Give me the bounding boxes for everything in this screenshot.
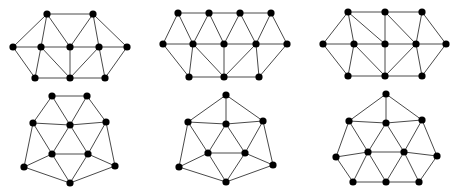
graph-edge [348,44,354,76]
graph-node [433,152,440,159]
graph-4 [20,92,118,186]
graph-edge [208,124,226,153]
graph-node [382,90,389,97]
graph-edge [353,152,368,182]
graph-node [364,148,371,155]
graph-edge [178,13,193,44]
graph-edge [224,13,240,44]
graph-node [222,178,229,185]
graph-edge [240,13,256,44]
graph-node [84,150,91,157]
graph-edge [354,44,385,76]
graph-edge [349,121,368,152]
graph-node [185,73,192,80]
graph-node [415,178,422,185]
graph-edge [386,152,404,182]
graph-node [241,149,248,156]
graph-edge [404,152,419,182]
graph-edge [404,120,422,152]
graph-edge [419,156,437,182]
graph-node [20,163,27,170]
graph-node [66,121,73,128]
graph-edge [385,12,416,44]
graph-node [48,150,55,157]
graph-edge [189,44,193,77]
graph-edge [422,120,437,156]
graph-edge [385,44,416,76]
graph-node [283,40,290,47]
graph-node [66,43,73,50]
graph-edge [323,44,348,76]
graph-edge [88,122,106,154]
graph-edge [33,123,70,125]
graph-node [220,73,227,80]
graph-node [48,92,55,99]
graph-edge [245,121,263,153]
graph-node [344,72,351,79]
graph-edge [245,153,273,165]
graph-node [382,119,389,126]
graph-edge [179,153,208,167]
graph-edge [209,13,224,44]
graph-node [66,74,73,81]
graph-node [66,179,73,186]
graph-edge [33,123,52,154]
graph-figure [0,0,457,194]
graph-edge [226,95,263,121]
graph-node [89,10,96,17]
graph-node [319,40,326,47]
graph-node [418,8,425,15]
graph-node [83,92,90,99]
graph-node [222,120,229,127]
graph-node [220,40,227,47]
graph-edge [224,44,256,77]
graph-node [111,162,118,169]
graph-node [31,74,38,81]
graph-6 [332,90,440,185]
graph-node [418,116,425,123]
graph-node [101,74,108,81]
graph-edge [416,12,422,44]
graph-edge [24,167,70,183]
graph-node [184,118,191,125]
graph-node [204,149,211,156]
graph-edge [88,154,115,166]
graph-edge [52,154,70,183]
graph-node [43,10,50,17]
graph-edge [41,47,70,78]
graph-edge [179,167,226,182]
graph-edge [52,96,70,125]
graph-3 [319,8,449,79]
graph-edge [70,14,93,47]
graph-edge [386,123,404,152]
graph-edge [179,122,188,167]
graph-node [381,8,388,15]
graph-node [174,9,181,16]
graph-node [255,73,262,80]
graph-node [189,40,196,47]
graph-node [175,163,182,170]
graph-edge [336,152,368,157]
graph-edge [70,125,88,154]
graph-node [382,178,389,185]
graph-node [269,161,276,168]
graph-edge [70,122,106,125]
graph-2 [159,9,290,80]
graph-edge [349,121,386,123]
graph-edge [70,166,115,183]
graph-node [412,40,419,47]
graph-node [442,40,449,47]
graph-edge [386,120,422,123]
graph-edge [404,152,437,156]
graph-node [159,40,166,47]
graph-edge [99,47,105,78]
graph-edge [349,94,386,121]
graph-node [205,9,212,16]
graph-edge [188,122,226,124]
graph-node [400,148,407,155]
graphs-layer [9,8,449,186]
graph-edge [263,121,273,165]
graph-edge [336,157,353,182]
graph-node [381,72,388,79]
graph-edge [323,12,348,44]
